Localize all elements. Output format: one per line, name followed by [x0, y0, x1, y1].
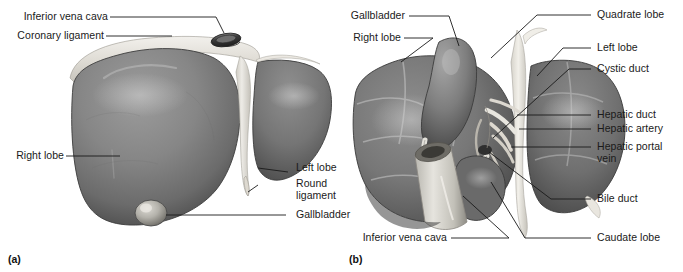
left-lobe-highlight-b [541, 92, 605, 132]
liver-anatomy-figure: Inferior vena cava Coronary ligament Rig… [0, 0, 683, 272]
panel-b-caption: (b) [349, 253, 362, 265]
porta-hepatis-opening [478, 145, 492, 155]
label-round-ligament-a: Round ligament [296, 178, 340, 201]
gallbladder-shape [135, 200, 167, 226]
label-hepatic-duct-b: Hepatic duct [597, 109, 656, 121]
label-right-lobe-b: Right lobe [341, 32, 401, 44]
label-left-lobe-b: Left lobe [597, 42, 638, 54]
right-lobe-highlight [92, 73, 188, 117]
label-left-lobe-a: Left lobe [296, 162, 337, 174]
label-inferior-vena-cava-b: Inferior vena cava [341, 232, 447, 244]
label-hepatic-artery-b: Hepatic artery [597, 123, 663, 135]
label-caudate-lobe-b: Caudate lobe [597, 232, 660, 244]
label-inferior-vena-cava-a: Inferior vena cava [8, 11, 108, 23]
left-lobe-highlight [268, 82, 320, 110]
gallbladder-highlight-b [442, 49, 460, 75]
panel-a-anterior-view: Inferior vena cava Coronary ligament Rig… [0, 0, 341, 272]
panel-a-caption: (a) [8, 253, 21, 265]
label-bile-duct-b: Bile duct [597, 193, 638, 205]
label-coronary-ligament-a: Coronary ligament [6, 30, 104, 42]
label-quadrate-lobe-b: Quadrate lobe [597, 9, 664, 21]
panel-b-inferior-view: Gallbladder Right lobe Inferior vena cav… [341, 0, 683, 272]
label-right-lobe-a: Right lobe [4, 150, 64, 162]
label-gallbladder-b: Gallbladder [341, 10, 405, 22]
gallbladder-highlight [140, 204, 152, 213]
caudate-lobe-highlight [465, 167, 497, 189]
label-hepatic-portal-vein-b: Hepatic portal vein [597, 141, 669, 164]
round-ligament-shape [244, 176, 249, 196]
ligament-tag-upper [523, 28, 547, 44]
left-lobe-shape-b [527, 60, 625, 213]
label-cystic-duct-b: Cystic duct [597, 63, 649, 75]
